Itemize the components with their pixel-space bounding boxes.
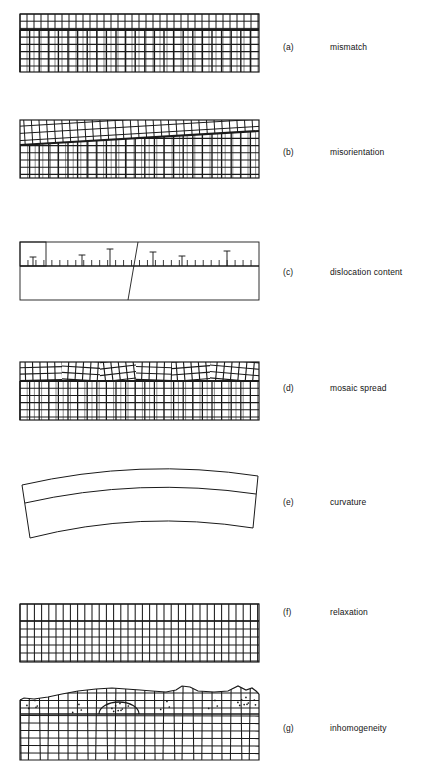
defect-dot bbox=[166, 701, 168, 703]
defect-dot bbox=[121, 708, 123, 710]
defect-dot bbox=[119, 703, 121, 705]
defect-dot bbox=[247, 702, 249, 704]
defect-dot bbox=[237, 702, 239, 704]
defect-dot bbox=[26, 705, 28, 707]
figure-canvas: (a) mismatch (b) misorientation (c) disl… bbox=[0, 0, 446, 772]
defect-dot bbox=[36, 705, 38, 707]
defect-dot bbox=[72, 712, 74, 714]
defect-dot bbox=[35, 706, 37, 708]
panel-caption-b: misorientation bbox=[330, 148, 384, 157]
defect-dot bbox=[113, 711, 115, 713]
panel-tag-c: (c) bbox=[283, 268, 293, 277]
defect-dot bbox=[246, 703, 248, 705]
defect-dot bbox=[120, 709, 122, 711]
panel-caption-d: mosaic spread bbox=[330, 384, 387, 393]
defect-dot bbox=[255, 704, 257, 706]
panel-tag-e: (e) bbox=[283, 498, 294, 507]
defect-dot bbox=[241, 699, 243, 701]
panel-caption-a: mismatch bbox=[330, 43, 367, 52]
defect-dot bbox=[243, 704, 245, 706]
panel-tag-b: (b) bbox=[283, 148, 294, 157]
panel-tag-a: (a) bbox=[283, 43, 294, 52]
defect-dot bbox=[80, 709, 82, 711]
panel-tag-d: (d) bbox=[283, 384, 294, 393]
panel-caption-c: dislocation content bbox=[330, 268, 402, 277]
panel-tag-f: (f) bbox=[283, 608, 291, 617]
defect-dot bbox=[168, 706, 170, 708]
panel-caption-f: relaxation bbox=[330, 608, 368, 617]
panel-tag-g: (g) bbox=[283, 724, 294, 733]
defect-dot bbox=[245, 697, 247, 699]
defect-dot bbox=[28, 708, 30, 710]
defect-dot bbox=[208, 708, 210, 710]
defect-dot bbox=[34, 700, 36, 702]
defect-dot bbox=[216, 705, 218, 707]
defect-dot bbox=[160, 709, 162, 711]
panel-caption-g: inhomogeneity bbox=[330, 724, 387, 733]
defect-dot bbox=[214, 700, 216, 702]
panel-g-outline bbox=[20, 694, 259, 760]
defect-dot bbox=[253, 699, 255, 701]
defect-dot bbox=[115, 705, 117, 707]
defect-dot bbox=[78, 704, 80, 706]
defect-dot bbox=[111, 708, 113, 710]
defect-dot bbox=[127, 705, 129, 707]
defect-dot bbox=[117, 710, 119, 712]
defect-dot bbox=[239, 705, 241, 707]
panel-caption-e: curvature bbox=[330, 498, 366, 507]
